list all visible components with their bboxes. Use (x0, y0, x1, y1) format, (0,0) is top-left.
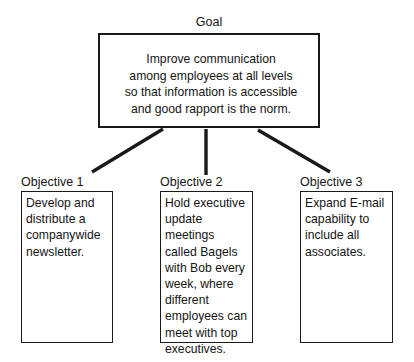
objective-1-box: Develop and distribute a companywide new… (21, 191, 113, 343)
objective-2-label: Objective 2 (160, 175, 223, 190)
objective-3-label: Objective 3 (300, 175, 363, 190)
objective-2-text: Hold executive update meetings called Ba… (165, 195, 249, 357)
objective-3-text: Expand E-mail capability to include all … (305, 195, 389, 260)
connector-goal-to-objective-1 (92, 129, 163, 172)
objective-3-box: Expand E-mail capability to include all … (300, 191, 393, 343)
goal-label: Goal (98, 15, 320, 30)
goal-objectives-diagram: Goal Improve communication among employe… (0, 0, 414, 362)
objective-1-label: Objective 1 (21, 175, 84, 190)
goal-box: Improve communication among employees at… (98, 33, 320, 128)
connector-goal-to-objective-3 (258, 130, 330, 172)
objective-2-box: Hold executive update meetings called Ba… (160, 191, 253, 343)
objective-1-text: Develop and distribute a companywide new… (26, 195, 109, 260)
goal-box-text: Improve communication among employees at… (100, 51, 322, 117)
